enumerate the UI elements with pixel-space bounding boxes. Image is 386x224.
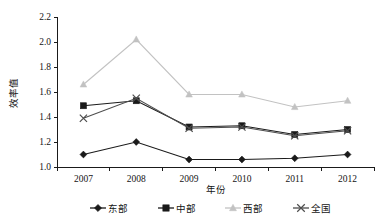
data-point-square: [345, 127, 351, 133]
line-chart: 1.01.21.41.61.82.02.2 200720082009201020…: [0, 0, 386, 224]
chart-background: [0, 0, 386, 224]
x-tick-label: 2008: [127, 174, 146, 184]
y-axis-title: 效率值: [8, 78, 19, 108]
x-tick-label: 2007: [74, 174, 93, 184]
data-point-square: [163, 205, 169, 211]
x-tick-label: 2011: [285, 174, 304, 184]
x-tick-label: 2012: [338, 174, 357, 184]
legend-label: 中部: [176, 203, 196, 214]
data-point-square: [292, 132, 298, 138]
y-tick-label: 1.6: [39, 87, 51, 97]
data-point-square: [80, 103, 86, 109]
y-tick-label: 1.2: [39, 137, 51, 147]
y-tick-label: 2.0: [39, 37, 51, 47]
x-axis-title: 年份: [206, 184, 226, 195]
legend-label: 全国: [311, 203, 331, 214]
x-tick-label: 2009: [180, 174, 199, 184]
legend-label: 东部: [108, 203, 128, 214]
chart-canvas: 1.01.21.41.61.82.02.2 200720082009201020…: [0, 0, 386, 224]
legend-label: 西部: [243, 203, 263, 214]
x-tick-label: 2010: [232, 174, 251, 184]
y-tick-label: 1.4: [39, 112, 51, 122]
y-tick-label: 1.8: [39, 62, 51, 72]
y-tick-label: 1.0: [39, 162, 51, 172]
y-tick-label: 2.2: [39, 12, 51, 22]
